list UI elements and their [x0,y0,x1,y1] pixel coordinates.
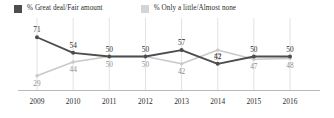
chart-svg: 2944505042574748 7154505057425050 [0,18,334,94]
chart-x-axis: 20092010201120122013201420152016 [0,96,334,112]
data-point [71,51,75,55]
x-tick-label: 2010 [66,98,81,105]
dark-swatch-icon [14,5,22,13]
data-point [35,74,38,77]
legend-item-label: % Great deal/Fair amount [27,5,103,12]
data-point [216,62,220,66]
data-label: 50 [106,60,114,69]
x-tick-label: 2013 [174,98,189,105]
data-label: 57 [178,38,186,47]
chart-plot-area: 2944505042574748 7154505057425050 [0,18,334,94]
x-tick-label: 2009 [30,98,45,105]
data-label: 29 [33,79,41,88]
data-label: 54 [69,41,77,50]
light-swatch-icon [141,5,149,13]
data-point [252,55,256,59]
x-tick-label: 2015 [246,98,261,105]
data-label: 71 [33,25,41,34]
legend-item-label: % Only a little/Almost none [154,5,236,12]
data-point [107,55,111,59]
data-label: 50 [250,45,258,54]
x-tick-label: 2011 [102,98,117,105]
data-label: 50 [142,60,150,69]
legend-item-great-deal: % Great deal/Fair amount [14,0,103,18]
chart-figure: % Great deal/Fair amount % Only a little… [0,0,334,118]
chart-legend: % Great deal/Fair amount % Only a little… [0,0,334,18]
data-label: 44 [69,65,77,74]
x-tick-label: 2014 [210,98,225,105]
x-tick-label: 2016 [283,98,298,105]
data-label: 50 [106,45,114,54]
data-label: 48 [286,61,294,70]
data-label: 42 [178,67,186,76]
legend-item-only-a-little: % Only a little/Almost none [141,0,236,18]
data-point [71,60,74,63]
data-label: 50 [142,45,150,54]
data-point [180,62,183,65]
data-point [180,48,184,52]
data-point [143,55,147,59]
data-label: 42 [214,52,222,61]
data-label: 47 [250,62,258,71]
data-point [35,35,39,39]
data-point [288,55,292,59]
data-label: 50 [286,45,294,54]
x-tick-label: 2012 [138,98,153,105]
